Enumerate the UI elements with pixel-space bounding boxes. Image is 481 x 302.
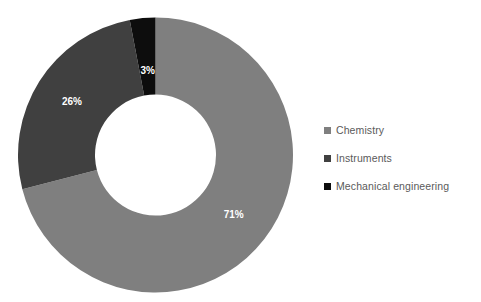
legend-label-instruments: Instruments	[336, 153, 392, 164]
legend-item-instruments[interactable]: Instruments	[324, 144, 476, 172]
legend-swatch-icon-chemistry	[324, 127, 331, 134]
legend-item-chemistry[interactable]: Chemistry	[324, 116, 476, 144]
donut-plot-area: 71%26%3%	[0, 0, 320, 302]
donut-svg: 71%26%3%	[0, 0, 320, 302]
slice-data-label-chemistry: 71%	[224, 209, 244, 220]
chart-legend: Chemistry Instruments Mechanical enginee…	[324, 116, 476, 200]
legend-label-chemistry: Chemistry	[336, 125, 384, 136]
legend-swatch-icon-instruments	[324, 155, 331, 162]
donut-slice-group	[18, 18, 293, 293]
legend-label-mechanical-engineering: Mechanical engineering	[336, 181, 449, 192]
donut-chart-figure: 71%26%3% Chemistry Instruments Mechanica…	[0, 0, 481, 302]
slice-data-label-mechanical-engineering: 3%	[140, 65, 155, 76]
slice-data-label-instruments: 26%	[62, 96, 82, 107]
legend-swatch-icon-mechanical-engineering	[324, 183, 331, 190]
legend-item-mechanical-engineering[interactable]: Mechanical engineering	[324, 172, 476, 200]
